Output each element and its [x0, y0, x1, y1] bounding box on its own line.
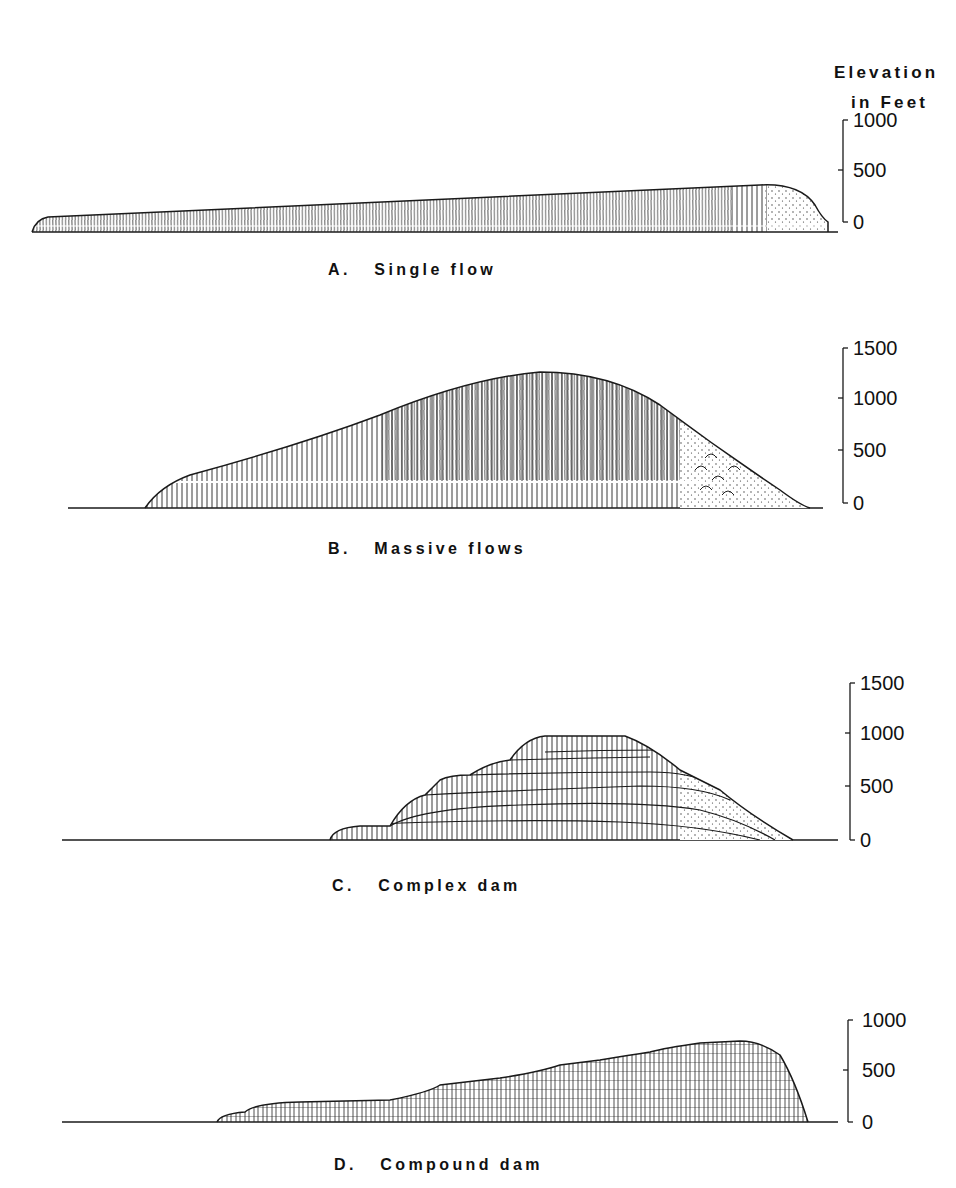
tick-c-500: 500 — [860, 776, 893, 796]
panel-d-label: D. Compound dam — [334, 1156, 543, 1174]
tick-c-0: 0 — [860, 830, 871, 850]
tick-d-500: 500 — [862, 1060, 895, 1080]
tick-d-0: 0 — [862, 1112, 873, 1132]
elevation-axis-a — [838, 120, 848, 222]
elevation-axis-c — [845, 683, 855, 840]
tick-c-1500: 1500 — [860, 673, 905, 693]
panel-b-label: B. Massive flows — [328, 540, 526, 558]
panel-b-profile — [68, 360, 823, 510]
tick-a-500: 500 — [853, 160, 886, 180]
tick-c-1000: 1000 — [860, 723, 905, 743]
tick-a-0: 0 — [853, 212, 864, 232]
elevation-axis-b — [838, 348, 848, 503]
tick-b-1500: 1500 — [853, 338, 898, 358]
tick-b-500: 500 — [853, 440, 886, 460]
tick-b-1000: 1000 — [853, 388, 898, 408]
panel-c-label: C. Complex dam — [332, 877, 521, 895]
panel-c-profile — [62, 730, 838, 845]
tick-b-0: 0 — [853, 493, 864, 513]
panel-d-profile — [62, 1035, 838, 1125]
axis-title-line1: Elevation — [834, 63, 938, 83]
tick-d-1000: 1000 — [862, 1010, 907, 1030]
tick-a-1000: 1000 — [853, 110, 898, 130]
elevation-axis-d — [843, 1020, 853, 1122]
lava-dam-profiles-diagram — [0, 0, 956, 1188]
panel-a-label: A. Single flow — [328, 261, 496, 279]
panel-a-profile — [32, 180, 838, 235]
